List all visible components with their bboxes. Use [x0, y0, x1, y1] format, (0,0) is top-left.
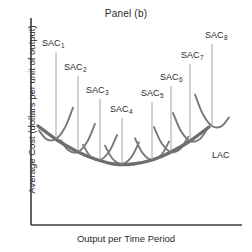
- curve-label-sac6: SAC6: [160, 72, 183, 82]
- curve-label-sac3: SAC3: [86, 85, 109, 95]
- curve-label-sac7: SAC7: [181, 50, 204, 60]
- chart-figure: Panel (b) Average Cost (dollars per unit…: [0, 0, 252, 252]
- curve-label-sac4: SAC4: [110, 104, 133, 114]
- curve-label-sac5: SAC5: [141, 88, 164, 98]
- curve-label-subscript: 8: [224, 34, 228, 41]
- sac-curve-group: [39, 95, 229, 165]
- curve-label-subscript: 2: [83, 66, 87, 73]
- curve-label-sac8: SAC8: [205, 30, 228, 40]
- curve-label-subscript: 4: [129, 108, 133, 115]
- curve-label-text: SAC: [141, 88, 160, 98]
- curve-label-subscript: 5: [160, 92, 164, 99]
- curve-label-text: SAC: [86, 85, 105, 95]
- curve-label-sac1: SAC1: [42, 38, 65, 48]
- curve-label-text: SAC: [64, 62, 83, 72]
- curve-label-lac: LAC: [212, 150, 230, 160]
- curve-label-sac2: SAC2: [64, 62, 87, 72]
- curve-label-text: SAC: [181, 50, 200, 60]
- curve-label-subscript: 6: [179, 76, 183, 83]
- curve-label-subscript: 3: [105, 89, 109, 96]
- curve-label-subscript: 7: [200, 54, 204, 61]
- curve-label-text: SAC: [160, 72, 179, 82]
- curve-label-subscript: 1: [61, 42, 65, 49]
- curve-label-text: SAC: [42, 38, 61, 48]
- curve-label-text: SAC: [205, 30, 224, 40]
- curve-label-text: SAC: [110, 104, 129, 114]
- lac-envelope-curve: [38, 126, 209, 165]
